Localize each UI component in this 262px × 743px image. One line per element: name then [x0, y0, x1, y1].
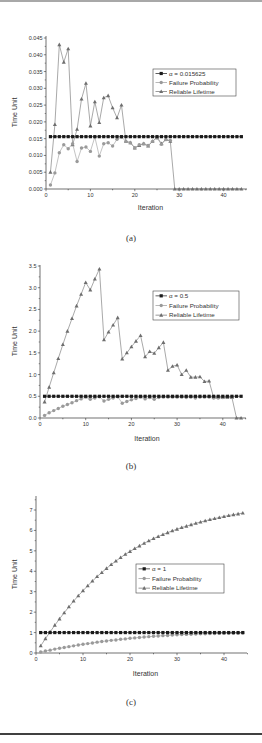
data-point [124, 631, 127, 634]
data-point [143, 631, 146, 634]
data-point [95, 640, 98, 643]
x-tick-label: 40 [221, 656, 227, 662]
data-point [237, 631, 240, 634]
data-point [204, 631, 207, 634]
data-point [147, 635, 150, 638]
data-point [175, 631, 178, 634]
y-tick-label: 7 [29, 507, 32, 513]
data-point [119, 638, 122, 641]
failure-probability-series [39, 631, 245, 653]
data-point [185, 631, 188, 634]
square-marker-icon [143, 567, 146, 570]
y-tick-label: 6 [29, 527, 32, 533]
data-point [96, 631, 99, 634]
data-point [81, 631, 84, 634]
legend-label: Reliable Lifetime [152, 584, 198, 591]
chart-c: 01020304001234567IterationTime Unitα = 1… [0, 0, 262, 690]
data-point [119, 631, 122, 634]
legend: α = 1Failure ProbabilityReliable Lifetim… [136, 564, 224, 593]
data-point [208, 631, 211, 634]
data-point [62, 646, 65, 649]
data-point [100, 631, 103, 634]
data-point [67, 645, 70, 648]
data-point [190, 631, 193, 634]
data-point [44, 631, 47, 634]
data-point [49, 631, 52, 634]
data-point [161, 634, 164, 637]
data-point [166, 631, 169, 634]
data-point [133, 636, 136, 639]
data-point [171, 631, 174, 634]
data-point [137, 544, 141, 548]
data-point [53, 647, 56, 650]
data-point [109, 562, 113, 566]
data-point [147, 539, 151, 543]
data-point [152, 631, 155, 634]
y-tick-label: 5 [29, 548, 32, 554]
data-point [86, 631, 89, 634]
x-tick-label: 0 [34, 656, 37, 662]
data-point [100, 640, 103, 643]
data-point [105, 566, 109, 570]
data-point [53, 631, 56, 634]
data-point [39, 631, 42, 634]
data-point [180, 631, 183, 634]
data-point [133, 631, 136, 634]
data-point [110, 639, 113, 642]
data-point [227, 631, 230, 634]
data-point [72, 644, 75, 647]
data-point [157, 634, 160, 637]
data-point [128, 637, 131, 640]
data-point [194, 631, 197, 634]
data-point [81, 643, 84, 646]
data-point [133, 547, 137, 551]
y-tick-label: 0 [29, 650, 32, 656]
data-point [147, 631, 150, 634]
data-point [157, 631, 160, 634]
figure-caption-text [0, 737, 262, 743]
data-point [48, 648, 51, 651]
data-point [128, 549, 132, 553]
y-axis-title: Time Unit [11, 560, 18, 590]
data-point [77, 631, 80, 634]
x-tick-label: 10 [80, 656, 86, 662]
y-tick-label: 4 [29, 568, 32, 574]
bottom-rule [0, 733, 262, 735]
data-point [161, 631, 164, 634]
data-point [105, 631, 108, 634]
data-point [119, 555, 123, 559]
data-point [114, 638, 117, 641]
data-point [39, 644, 43, 648]
data-point [124, 637, 127, 640]
data-point [218, 631, 221, 634]
data-point [199, 631, 202, 634]
data-point [67, 631, 70, 634]
legend-label: α = 1 [152, 565, 167, 572]
data-point [77, 643, 80, 646]
data-point [166, 634, 169, 637]
x-axis-title: Iteration [133, 670, 158, 677]
legend-label: Failure Probability [152, 575, 202, 582]
data-point [63, 631, 66, 634]
data-point [142, 635, 145, 638]
x-tick-label: 30 [174, 656, 180, 662]
data-point [39, 650, 42, 653]
y-tick-label: 1 [29, 630, 32, 636]
data-point [110, 631, 113, 634]
data-point [138, 636, 141, 639]
data-point [123, 552, 127, 556]
x-tick-label: 20 [127, 656, 133, 662]
data-point [128, 631, 131, 634]
y-tick-label: 3 [29, 589, 32, 595]
data-point [241, 631, 244, 634]
data-point [86, 642, 89, 645]
data-point [114, 559, 118, 563]
data-point [58, 631, 61, 634]
data-point [142, 541, 146, 545]
data-point [44, 649, 47, 652]
y-tick-label: 2 [29, 609, 32, 615]
data-point [222, 631, 225, 634]
data-point [91, 631, 94, 634]
caption-c: (c) [0, 697, 262, 707]
data-point [138, 631, 141, 634]
